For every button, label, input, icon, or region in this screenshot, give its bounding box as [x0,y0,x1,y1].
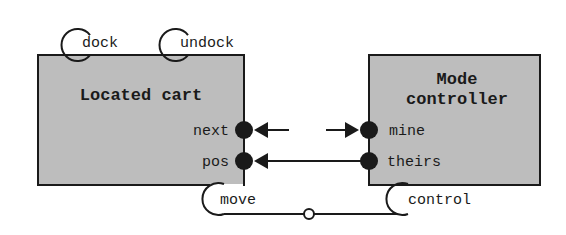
arrowhead-left-icon [254,153,268,169]
control-socket-icon [386,183,408,215]
pos-port-icon [235,152,253,170]
arrowhead-left-icon [254,122,268,138]
mine-to-next-connection [254,122,359,138]
next-port-label: next [193,123,229,140]
control-label: control [408,192,471,209]
arrowhead-right-icon [345,122,359,138]
located-cart-title: Located cart [80,86,202,105]
theirs-to-pos-connection [254,153,369,169]
mode-controller-component: Mode controller mine theirs [369,55,540,185]
mode-controller-title-line2: controller [406,90,508,109]
next-port-icon [235,121,253,139]
mine-port-icon [360,121,378,139]
undock-label: undock [180,35,234,52]
mode-controller-title-line1: Mode [437,70,478,89]
located-cart-component: Located cart next pos [38,55,244,185]
component-diagram: Located cart next pos dock undock Mode c… [0,0,566,235]
dock-label: dock [82,35,118,52]
mine-port-label: mine [389,123,425,140]
move-label: move [220,192,256,209]
link-circle-icon [304,209,314,219]
pos-port-label: pos [202,154,229,171]
control-operation: control [386,183,471,215]
move-operation: move [202,183,256,215]
move-to-control-connection [224,209,398,219]
theirs-port-label: theirs [387,154,441,171]
